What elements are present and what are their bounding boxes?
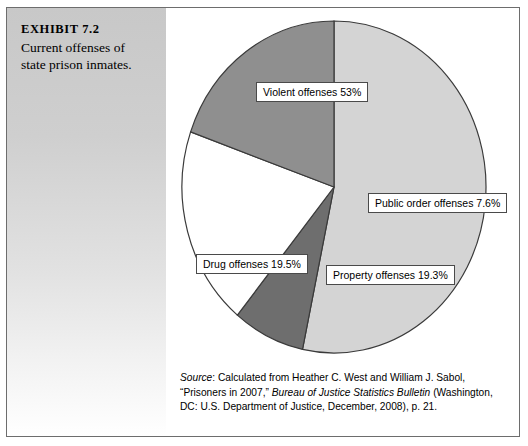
pie-chart-area: Violent offenses 53% Public order offens… (166, 8, 519, 436)
source-publication: Bureau of Justice Statistics Bulletin (272, 387, 431, 398)
exhibit-page: EXHIBIT 7.2 Current offenses of state pr… (0, 0, 528, 446)
slice-label-drug: Drug offenses 19.5% (196, 254, 308, 274)
slice-label-violent: Violent offenses 53% (256, 82, 368, 102)
exhibit-caption: Current offenses of state prison inmates… (21, 39, 149, 73)
slice-label-public-order: Public order offenses 7.6% (368, 193, 507, 213)
slice-label-property: Property offenses 19.3% (326, 265, 455, 285)
pie-chart-svg (178, 20, 490, 355)
exhibit-sidebar-band: EXHIBIT 7.2 Current offenses of state pr… (7, 8, 166, 436)
source-prefix: Source (180, 372, 212, 383)
exhibit-frame: EXHIBIT 7.2 Current offenses of state pr… (6, 7, 520, 437)
pie-chart: Violent offenses 53% Public order offens… (178, 20, 490, 355)
source-note: Source: Calculated from Heather C. West … (180, 371, 505, 415)
exhibit-number: EXHIBIT 7.2 (21, 22, 155, 37)
